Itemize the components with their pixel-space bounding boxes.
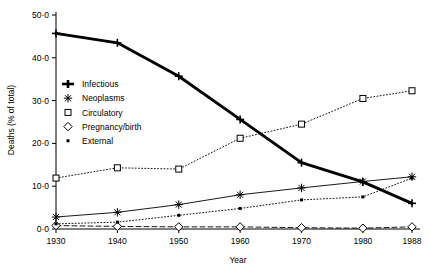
data-point-dot-marker — [55, 222, 58, 225]
legend-item-external[interactable]: External — [67, 136, 114, 146]
data-point-asterisk-marker — [113, 208, 121, 216]
series-external — [55, 177, 414, 226]
data-point-diamond-marker — [359, 224, 367, 232]
data-point-asterisk-marker — [297, 184, 305, 192]
data-point-square-marker — [360, 95, 366, 101]
x-tick-label: 1970 — [292, 236, 311, 246]
data-point-square-marker — [237, 135, 243, 141]
data-point-plus-marker — [52, 29, 60, 37]
data-point-diamond-marker — [236, 223, 244, 231]
y-axis-ticks: 0·010·020·030·040·050·0 — [32, 10, 56, 234]
data-point-diamond-marker — [297, 224, 305, 232]
y-tick-label: 40·0 — [32, 53, 49, 63]
y-tick-label: 10·0 — [32, 181, 49, 191]
chart-legend: InfectiousNeoplasmsCirculatoryPregnancy/… — [62, 79, 142, 146]
data-point-asterisk-marker — [236, 191, 244, 199]
data-point-diamond-marker — [175, 223, 183, 231]
data-point-diamond-marker — [408, 223, 416, 231]
data-point-square-marker — [176, 166, 182, 172]
data-point-square-marker — [299, 121, 305, 127]
data-point-dot-marker — [177, 214, 180, 217]
data-point-dot-marker — [361, 195, 364, 198]
series-pregnancy-birth — [52, 221, 416, 232]
data-point-diamond-marker — [64, 122, 72, 130]
data-point-square-marker — [65, 109, 71, 115]
x-tick-label: 1988 — [403, 236, 422, 246]
legend-label: External — [82, 136, 113, 146]
legend-label: Neoplasms — [82, 93, 125, 103]
x-tick-label: 1930 — [47, 236, 66, 246]
x-tick-label: 1940 — [108, 236, 127, 246]
data-point-asterisk-marker — [64, 94, 72, 102]
x-tick-label: 1960 — [231, 236, 250, 246]
x-tick-label: 1950 — [169, 236, 188, 246]
legend-item-circulatory[interactable]: Circulatory — [65, 108, 123, 118]
data-point-asterisk-marker — [175, 200, 183, 208]
x-axis-ticks: 1930194019501960197019801988 — [47, 229, 422, 246]
data-point-asterisk-marker — [408, 173, 416, 181]
x-axis-title: Year — [229, 255, 246, 265]
y-tick-label: 30·0 — [32, 96, 49, 106]
y-axis-title: Deaths (% of total) — [6, 85, 16, 156]
data-point-dot-marker — [300, 198, 303, 201]
legend-item-neoplasms[interactable]: Neoplasms — [64, 93, 125, 103]
line-chart-svg: 0·010·020·030·040·050·0 1930194019501960… — [0, 0, 430, 274]
data-point-dot-marker — [67, 139, 70, 142]
legend-label: Infectious — [82, 79, 118, 89]
series-infectious — [52, 29, 416, 207]
data-point-square-marker — [53, 175, 59, 181]
y-tick-label: 20·0 — [32, 138, 49, 148]
legend-label: Pregnancy/birth — [82, 122, 142, 132]
legend-label: Circulatory — [82, 108, 123, 118]
data-point-square-marker — [409, 88, 415, 94]
y-tick-label: 50·0 — [32, 10, 49, 20]
data-point-asterisk-marker — [52, 213, 60, 221]
x-tick-label: 1980 — [353, 236, 372, 246]
data-point-dot-marker — [239, 207, 242, 210]
legend-item-pregnancy-birth[interactable]: Pregnancy/birth — [64, 122, 142, 132]
legend-item-infectious[interactable]: Infectious — [62, 79, 118, 89]
chart-figure: 0·010·020·030·040·050·0 1930194019501960… — [0, 0, 430, 274]
data-point-dot-marker — [116, 221, 119, 224]
data-point-square-marker — [114, 165, 120, 171]
y-tick-label: 0·0 — [37, 224, 50, 234]
